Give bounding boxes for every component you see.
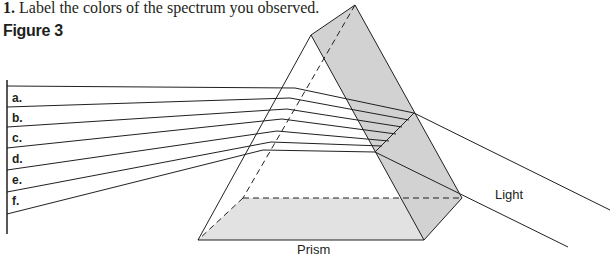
- spectrum-rays: [7, 98, 409, 214]
- blank-label-d: d.: [12, 152, 23, 166]
- light-caption: Light: [495, 187, 523, 202]
- prism-caption: Prism: [297, 242, 330, 257]
- blank-label-f: f.: [12, 194, 19, 208]
- blank-label-b: b.: [12, 111, 23, 125]
- blank-label-c: c.: [12, 131, 22, 145]
- blank-label-a: a.: [12, 91, 22, 105]
- prism-diagram: [0, 0, 610, 258]
- blank-label-e: e.: [12, 173, 22, 187]
